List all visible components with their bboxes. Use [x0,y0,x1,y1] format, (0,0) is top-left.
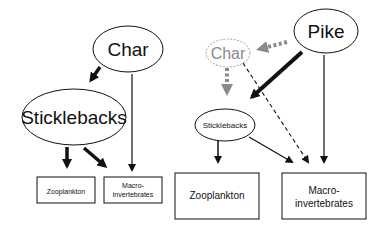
left-macroinvertebrates-node: Macro- invertebrates [104,177,162,203]
right-panel: Pike Char Sticklebacks Zooplankton Macro… [175,9,366,219]
right-pike-label: Pike [308,21,345,42]
left-panel: Char Sticklebacks Zooplankton Macro- inv… [21,26,163,203]
right-macro-label-line1: Macro- [308,185,339,196]
left-sticklebacks-label: Sticklebacks [21,107,127,128]
left-char-node: Char [93,26,163,72]
right-macro-label-line2: invertebrates [295,198,353,209]
right-pike-node: Pike [294,9,358,53]
left-macro-label-line1: Macro- [122,182,144,189]
left-zooplankton-label: Zooplankton [47,188,86,196]
food-web-diagram: Char Sticklebacks Zooplankton Macro- inv… [0,0,385,225]
right-zooplankton-node: Zooplankton [175,173,259,219]
right-edge-pike-sticklebacks [252,52,302,97]
left-edge-sticklebacks-macro [84,148,105,166]
right-sticklebacks-label: Sticklebacks [203,121,247,130]
right-edge-sticklebacks-macro [249,137,292,162]
left-char-label: Char [107,39,149,60]
right-edge-pike-char [260,42,287,49]
right-zooplankton-label: Zooplankton [189,190,244,201]
right-char-label: Char [211,45,246,62]
right-sticklebacks-node: Sticklebacks [195,109,255,141]
left-zooplankton-node: Zooplankton [37,177,95,203]
left-macro-label-line2: invertebrates [113,191,154,198]
left-edge-char-sticklebacks [91,67,100,80]
left-sticklebacks-node: Sticklebacks [21,89,127,145]
right-macroinvertebrates-node: Macro- invertebrates [282,173,366,219]
